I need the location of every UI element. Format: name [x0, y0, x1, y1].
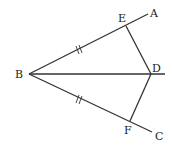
- label-c: C: [155, 130, 163, 143]
- geometry-diagram: B E A D F C: [0, 0, 173, 146]
- label-e: E: [118, 12, 126, 25]
- segment-fd: [130, 74, 151, 121]
- ray-bc: [29, 74, 152, 132]
- label-f: F: [124, 124, 132, 137]
- ray-ba: [29, 14, 148, 74]
- segment-ed: [126, 26, 151, 74]
- label-d: D: [152, 62, 161, 75]
- label-b: B: [15, 68, 23, 81]
- label-a: A: [149, 7, 159, 20]
